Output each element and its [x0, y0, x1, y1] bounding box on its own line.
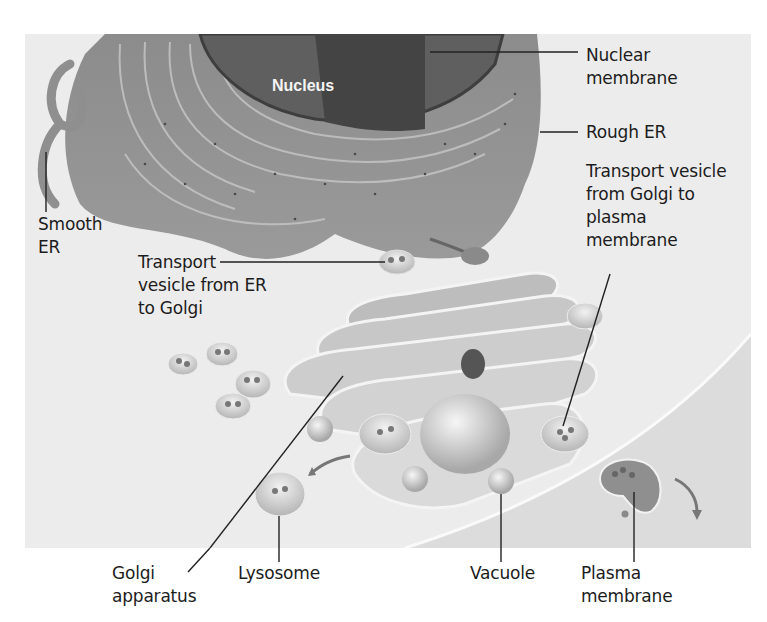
label-nuclear-membrane: Nuclear membrane [586, 44, 677, 90]
label-golgi-apparatus: Golgi apparatus [112, 562, 196, 608]
label-vacuole: Vacuole [470, 562, 535, 585]
diagram-panel: Nucleus [25, 34, 751, 548]
label-plasma-membrane: Plasma membrane [581, 562, 672, 608]
vacuole-shape [488, 468, 514, 494]
label-vesicle-er-to-golgi: Transport vesicle from ER to Golgi [138, 251, 267, 320]
label-vesicle-golgi-to-plasma-membrane: Transport vesicle from Golgi to plasma m… [586, 160, 726, 252]
label-lysosome: Lysosome [238, 562, 320, 585]
label-smooth-er: Smooth ER [38, 213, 102, 259]
label-nucleus: Nucleus [272, 77, 334, 95]
lysosome-shape [255, 472, 305, 516]
label-rough-er: Rough ER [586, 121, 666, 144]
cell-illustration [25, 34, 751, 548]
